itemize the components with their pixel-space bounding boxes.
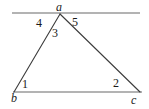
vertex-label-c: c: [131, 94, 136, 106]
vertex-label-a: a: [56, 1, 62, 13]
angle-label-3: 3: [52, 27, 58, 39]
vertex-label-b: b: [11, 92, 17, 104]
geometry-figure: a b c 1 2 3 4 5: [0, 0, 149, 109]
angle-label-5: 5: [72, 16, 78, 28]
angle-label-1: 1: [22, 78, 28, 90]
angle-label-4: 4: [36, 17, 42, 29]
angle-label-2: 2: [113, 77, 119, 89]
